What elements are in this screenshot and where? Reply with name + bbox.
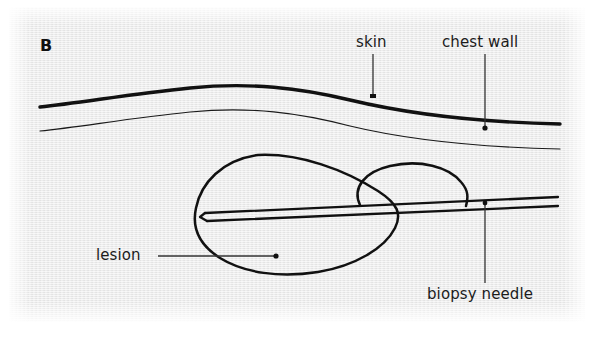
- label-skin: skin: [356, 33, 387, 51]
- lesion-secondary-lobe: [358, 163, 468, 206]
- label-biopsy-needle: biopsy needle: [427, 285, 533, 303]
- skin-leader-terminal: [370, 94, 376, 98]
- biopsy-needle-leader-dot: [483, 201, 488, 206]
- label-lesion: lesion: [96, 246, 141, 264]
- biopsy-needle-lower-edge: [207, 206, 558, 221]
- figure-panel: B skin chest wall lesion biopsy needle: [0, 0, 594, 340]
- chest-wall-line: [40, 110, 560, 149]
- biopsy-needle-upper-edge: [205, 197, 558, 213]
- chest-wall-leader-dot: [482, 125, 487, 130]
- label-chest-wall: chest wall: [442, 33, 518, 51]
- panel-letter: B: [40, 36, 52, 55]
- skin-line: [40, 86, 560, 124]
- biopsy-needle-bevel-tip: [200, 213, 207, 221]
- lesion-leader-dot: [273, 253, 278, 258]
